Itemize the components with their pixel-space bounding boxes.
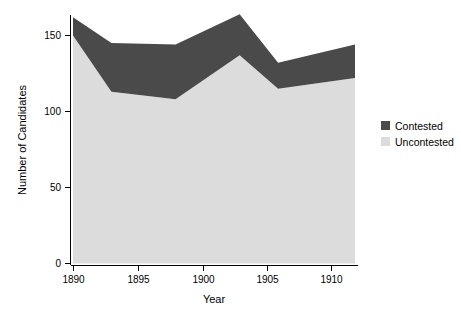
y-axis-title: Number of Candidates [16, 84, 28, 195]
area-chart: 150 100 50 0 1890 1895 1900 1905 1910 Ye… [0, 0, 461, 314]
x-tick-label-1905: 1905 [256, 274, 279, 285]
x-tick-label-1895: 1895 [127, 274, 150, 285]
chart-canvas: 150 100 50 0 1890 1895 1900 1905 1910 Ye… [0, 0, 461, 314]
legend-swatch-contested [381, 121, 390, 130]
x-tick-label-1900: 1900 [192, 274, 215, 285]
legend-swatch-uncontested [381, 137, 390, 146]
plot-area [73, 14, 355, 263]
y-tick-label-100: 100 [44, 106, 61, 117]
x-tick-label-1890: 1890 [62, 274, 85, 285]
x-axis-ticks [74, 266, 332, 272]
x-tick-label-1910: 1910 [320, 274, 343, 285]
y-tick-label-150: 150 [44, 30, 61, 41]
y-tick-label-0: 0 [55, 258, 61, 269]
legend-label-uncontested: Uncontested [395, 136, 454, 148]
y-axis-ticks [65, 36, 71, 264]
chart-legend: Contested Uncontested [381, 120, 454, 148]
y-tick-label-50: 50 [50, 182, 62, 193]
x-axis-title: Year [203, 293, 226, 305]
legend-label-contested: Contested [395, 120, 443, 132]
